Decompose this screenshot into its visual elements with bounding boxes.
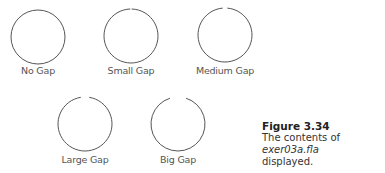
caption-text: The contents of xyxy=(262,132,340,143)
label-small-gap: Small Gap xyxy=(108,65,155,76)
caption-filename: exer03a.fla xyxy=(262,144,319,155)
circle-large-gap xyxy=(58,97,112,151)
label-medium-gap: Medium Gap xyxy=(196,65,254,76)
label-large-gap: Large Gap xyxy=(61,154,108,165)
circle-small-gap xyxy=(104,9,158,63)
circle-medium-gap xyxy=(198,8,252,62)
label-big-gap: Big Gap xyxy=(160,154,196,165)
circle-big-gap xyxy=(151,98,205,151)
label-no-gap: No Gap xyxy=(21,65,55,76)
figure-number: Figure 3.34 xyxy=(262,120,385,132)
circle-no-gap xyxy=(11,10,65,64)
caption-text-end: displayed. xyxy=(262,156,385,168)
figure-caption: Figure 3.34 The contents of exer03a.fla … xyxy=(262,120,385,168)
